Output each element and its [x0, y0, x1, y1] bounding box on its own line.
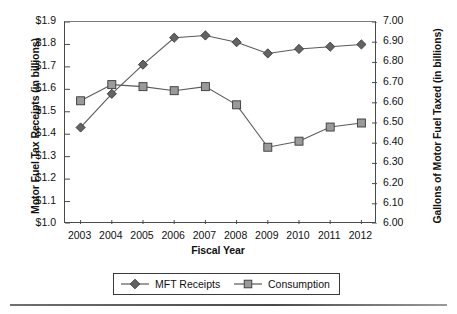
diamond-marker-icon — [120, 277, 150, 291]
data-point-marker-square — [77, 97, 85, 105]
y-axis-left-tick-label: $1.6 — [22, 81, 56, 93]
chart-legend: MFT Receipts Consumption — [113, 273, 340, 295]
data-point-marker-diamond — [294, 44, 303, 53]
y-axis-right-tick-label: 7.00 — [383, 14, 417, 26]
y-axis-left-tick-label: $1.0 — [22, 216, 56, 228]
data-point-marker-diamond — [357, 40, 366, 49]
series-line-mft-receipts — [81, 35, 362, 127]
data-point-marker-square — [357, 119, 365, 127]
series-line-consumption — [81, 85, 362, 148]
y-axis-left-tick-label: $1.4 — [22, 126, 56, 138]
data-point-marker-diamond — [201, 31, 210, 40]
y-axis-left-tick-label: $1.8 — [22, 36, 56, 48]
y-axis-right-tick-label: 6.80 — [383, 54, 417, 66]
y-axis-right-tick-label: 6.90 — [383, 34, 417, 46]
data-point-marker-square — [170, 87, 178, 95]
legend-label: Consumption — [268, 278, 330, 290]
data-point-marker-square — [108, 81, 116, 89]
y-axis-left-tick-label: $1.7 — [22, 59, 56, 71]
y-axis-right-tick-label: 6.10 — [383, 196, 417, 208]
y-axis-left-tick-label: $1.3 — [22, 149, 56, 161]
chart-figure: Motor Fuel Tax Receipts (in billions) Ga… — [0, 0, 457, 314]
x-axis-tick-label: 2012 — [340, 229, 380, 241]
data-point-marker-square — [326, 123, 334, 131]
data-point-marker-diamond — [263, 49, 272, 58]
y-axis-right-tick-label: 6.30 — [383, 155, 417, 167]
y-axis-right-tick-label: 6.50 — [383, 115, 417, 127]
data-point-marker-diamond — [326, 42, 335, 51]
plot-area — [64, 21, 376, 223]
data-point-marker-square — [264, 143, 272, 151]
data-point-marker-square — [201, 83, 209, 91]
y-axis-right-tick-label: 6.00 — [383, 216, 417, 228]
y-axis-right-tick-label: 6.60 — [383, 95, 417, 107]
y-axis-left-tick-label: $1.2 — [22, 171, 56, 183]
data-point-marker-square — [233, 101, 241, 109]
y-axis-right-title: Gallons of Motor Fuel Taxed (in billions… — [431, 21, 443, 231]
legend-item-consumption[interactable]: Consumption — [233, 274, 330, 294]
legend-item-mft-receipts[interactable]: MFT Receipts — [120, 274, 220, 294]
legend-label: MFT Receipts — [155, 278, 220, 290]
page-divider-rule — [10, 304, 447, 306]
y-axis-left-tick-label: $1.1 — [22, 194, 56, 206]
data-point-marker-diamond — [232, 38, 241, 47]
y-axis-left-tick-label: $1.5 — [22, 104, 56, 116]
y-axis-left-tick-label: $1.9 — [22, 14, 56, 26]
data-point-marker-square — [139, 83, 147, 91]
y-axis-right-tick-label: 6.40 — [383, 135, 417, 147]
data-point-marker-square — [295, 137, 303, 145]
y-axis-right-tick-label: 6.70 — [383, 75, 417, 87]
y-axis-right-tick-label: 6.20 — [383, 176, 417, 188]
square-marker-icon — [233, 277, 263, 291]
x-axis-title: Fiscal Year — [58, 244, 378, 256]
plot-svg — [65, 22, 377, 224]
